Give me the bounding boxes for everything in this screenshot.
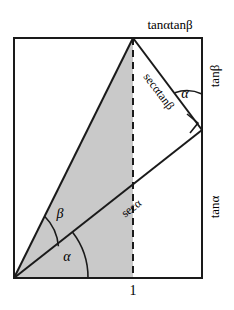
sec-alpha-tan-beta-line bbox=[133, 38, 202, 130]
label-tan-beta: tanβ bbox=[207, 64, 222, 87]
label-angle-beta: β bbox=[56, 206, 64, 221]
diagram-canvas: tanαtanβ tanβ tanα secαtanβ secα β α α 1 bbox=[0, 0, 234, 310]
label-tan-alpha-tan-beta: tanαtanβ bbox=[147, 17, 193, 32]
label-angle-alpha-upper: α bbox=[181, 86, 189, 101]
label-tan-alpha: tanα bbox=[207, 195, 222, 218]
trig-identity-diagram: tanαtanβ tanβ tanα secαtanβ secα β α α 1 bbox=[0, 0, 234, 310]
label-angle-alpha-lower: α bbox=[63, 249, 71, 264]
label-base-one: 1 bbox=[130, 283, 137, 298]
